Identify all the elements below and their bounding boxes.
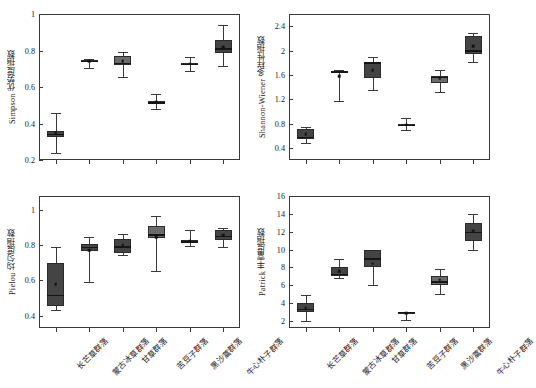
- whisker-cap-bottom: [334, 101, 344, 102]
- y-tick-mark: [39, 280, 43, 281]
- whisker-cap-top: [218, 25, 228, 26]
- median-line: [331, 274, 348, 275]
- y-tick-mark: [39, 124, 43, 125]
- x-tick-mark: [156, 160, 157, 164]
- whisker-cap-top: [301, 295, 311, 296]
- x-axis-label-patrick-4: 黑沙蒿群落: [458, 335, 494, 371]
- y-tick-mark: [39, 210, 43, 211]
- whisker-cap-bottom: [301, 321, 311, 322]
- y-tick-label: 2.4: [265, 22, 285, 31]
- x-tick-mark: [89, 328, 90, 332]
- whisker-lower: [89, 251, 90, 282]
- y-tick-mark: [289, 303, 293, 304]
- x-tick-mark: [56, 160, 57, 164]
- whisker-cap-top: [334, 259, 344, 260]
- y-tick-mark: [289, 99, 293, 100]
- whisker-cap-bottom: [468, 250, 478, 251]
- y-axis-label-pielou: Pielou 均匀度指数: [7, 196, 19, 328]
- y-tick-label: 0.4: [15, 119, 35, 128]
- x-tick-mark: [123, 160, 124, 164]
- mean-marker: [121, 60, 124, 63]
- whisker-cap-bottom: [218, 247, 228, 248]
- x-axis-label-patrick-0: 长芒草群落: [324, 335, 360, 371]
- whisker-upper: [223, 25, 224, 41]
- whisker-cap-top: [401, 118, 411, 119]
- plot-area-patrick: [289, 196, 490, 328]
- y-tick-mark: [39, 245, 43, 246]
- mean-marker: [54, 283, 57, 286]
- whisker-cap-bottom: [301, 143, 311, 144]
- y-tick-mark: [39, 51, 43, 52]
- median-line: [465, 50, 482, 51]
- whisker-lower: [306, 312, 307, 321]
- median-line: [364, 258, 381, 259]
- whisker-cap-top: [118, 52, 128, 53]
- y-tick-label: 16: [265, 192, 285, 201]
- y-tick-mark: [39, 316, 43, 317]
- whisker-lower: [123, 65, 124, 76]
- whisker-cap-top: [218, 228, 228, 229]
- x-tick-mark: [339, 160, 340, 164]
- median-line: [431, 281, 448, 282]
- whisker-cap-top: [185, 57, 195, 58]
- x-tick-mark: [406, 328, 407, 332]
- median-line: [114, 63, 131, 64]
- x-tick-mark: [406, 160, 407, 164]
- y-tick-label: 0.6: [15, 276, 35, 285]
- whisker-cap-top: [368, 57, 378, 58]
- x-tick-mark: [473, 328, 474, 332]
- whisker-lower: [473, 241, 474, 250]
- y-tick-label: 8: [265, 263, 285, 272]
- whisker-upper: [156, 216, 157, 225]
- whisker-upper: [89, 237, 90, 244]
- mean-marker: [304, 133, 307, 136]
- mean-marker: [54, 132, 57, 135]
- whisker-upper: [190, 230, 191, 240]
- whisker-upper: [56, 247, 57, 262]
- mean-marker: [304, 307, 307, 310]
- whisker-cap-bottom: [118, 255, 128, 256]
- whisker-lower: [373, 267, 374, 285]
- x-axis-label-patrick-3: 苦豆子群落: [424, 335, 460, 371]
- median-line: [331, 71, 348, 72]
- whisker-lower: [56, 137, 57, 153]
- y-tick-mark: [39, 14, 43, 15]
- whisker-upper: [473, 214, 474, 223]
- y-tick-label: 1: [15, 10, 35, 19]
- y-tick-label: 0.8: [265, 119, 285, 128]
- mean-marker: [438, 279, 441, 282]
- whisker-cap-top: [435, 269, 445, 270]
- y-tick-mark: [289, 196, 293, 197]
- mean-marker: [188, 63, 191, 66]
- y-tick-label: 1.6: [265, 70, 285, 79]
- mean-marker: [338, 270, 341, 273]
- whisker-lower: [440, 285, 441, 294]
- whisker-lower: [156, 238, 157, 271]
- x-tick-mark: [190, 328, 191, 332]
- median-line: [47, 295, 64, 296]
- x-tick-mark: [89, 160, 90, 164]
- mean-marker: [371, 69, 374, 72]
- y-tick-label: 0.8: [15, 241, 35, 250]
- whisker-cap-bottom: [368, 90, 378, 91]
- x-tick-mark: [440, 160, 441, 164]
- mean-marker: [121, 244, 124, 247]
- y-tick-label: 4: [265, 299, 285, 308]
- whisker-cap-top: [151, 216, 161, 217]
- whisker-cap-top: [468, 33, 478, 34]
- y-tick-label: 0.2: [15, 156, 35, 165]
- whisker-upper: [339, 259, 340, 267]
- whisker-upper: [306, 295, 307, 303]
- x-tick-mark: [373, 160, 374, 164]
- y-tick-label: 10: [265, 245, 285, 254]
- y-tick-label: 6: [265, 281, 285, 290]
- mean-marker: [188, 240, 191, 243]
- x-tick-mark: [373, 328, 374, 332]
- whisker-cap-top: [51, 113, 61, 114]
- mean-marker: [222, 234, 225, 237]
- mean-marker: [371, 262, 374, 265]
- whisker-lower: [473, 54, 474, 62]
- y-tick-mark: [39, 160, 43, 161]
- mean-marker: [472, 229, 475, 232]
